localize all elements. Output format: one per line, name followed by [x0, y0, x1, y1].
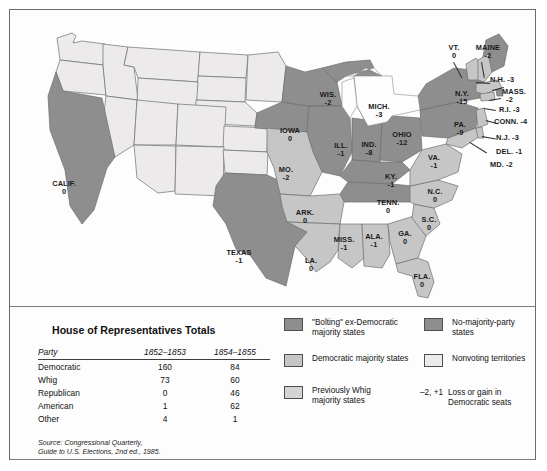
- state-label-massachusetts: MASS. -2: [502, 88, 526, 105]
- state-label-illinois: ILL.-1: [326, 142, 356, 159]
- legend-swatch-democratic: [284, 354, 303, 367]
- legend-label-bolting: "Bolting" ex-Democratic majority states: [312, 318, 398, 337]
- state-label-delaware: DEL. -1: [496, 148, 522, 156]
- legend-label-previously-whig: Previously Whig majority states: [312, 386, 371, 405]
- state-label-north-carolina: N.C.0: [421, 188, 449, 205]
- state-label-indiana: IND.-8: [353, 141, 385, 158]
- column-header-party: Party: [38, 346, 130, 360]
- state-label-maryland: MD. -2: [490, 161, 513, 169]
- legend-item-bolting: "Bolting" ex-Democratic majority states: [284, 318, 414, 337]
- legend-seat-change-symbol: –2, +1: [420, 388, 439, 397]
- legend-item-no-majority: No-majority-party states: [424, 318, 544, 337]
- state-label-iowa: IOWA0: [270, 127, 310, 144]
- state-label-connecticut: CONN. -4: [494, 118, 527, 126]
- state-utah: [134, 100, 178, 145]
- legend-label-democratic: Democratic majority states: [312, 354, 408, 364]
- state-label-pennsylvania: PA.-9: [447, 121, 473, 138]
- legend-swatch-previously-whig: [284, 386, 303, 399]
- state-label-califórnia: CALIF.0: [42, 180, 86, 197]
- state-label-tennessee: TENN.0: [367, 199, 409, 216]
- cell-1854: 1: [200, 413, 270, 426]
- table-row: Democratic 160 84: [38, 360, 270, 374]
- legend-item-nonvoting: Nonvoting territories: [424, 354, 544, 367]
- state-label-virginia: VA.-1: [421, 154, 447, 171]
- legend-item-previously-whig: Previously Whig majority states: [284, 386, 414, 405]
- state-label-south-carolina: S.C.0: [415, 216, 443, 233]
- cell-1852: 0: [130, 386, 200, 399]
- source-note: Source: Congressional Quarterly, Guide t…: [38, 439, 161, 456]
- state-new-jersey: [476, 108, 488, 128]
- state-label-rhode-island: R.I. -3: [499, 106, 520, 114]
- table-row: Whig 73 60: [38, 373, 270, 386]
- source-line-1: Source: Congressional Quarterly,: [38, 439, 161, 448]
- legend-bottom-divider: [10, 459, 535, 460]
- legend-swatch-no-majority: [424, 318, 443, 331]
- legend-swatch-bolting: [284, 318, 303, 331]
- column-header-1854-1855: 1854–1855: [200, 346, 270, 360]
- table-row: American 1 62: [38, 400, 270, 413]
- cell-party: Democratic: [38, 360, 130, 374]
- cell-1854: 84: [200, 360, 270, 374]
- state-label-alabama: ALA.-1: [358, 233, 390, 250]
- cell-1852: 73: [130, 373, 200, 386]
- state-label-kentucky: KY.-1: [376, 173, 406, 190]
- cell-party: American: [38, 400, 130, 413]
- cell-1852: 4: [130, 413, 200, 426]
- cell-1854: 62: [200, 400, 270, 413]
- legend-label-nonvoting: Nonvoting territories: [452, 354, 525, 364]
- table-row: Republican 0 46: [38, 386, 270, 399]
- state-arizona: [134, 145, 176, 193]
- legend-item-democratic: Democratic majority states: [284, 354, 424, 367]
- cell-party: Other: [38, 413, 130, 426]
- state-label-wisconsin: WIS.-2: [310, 91, 346, 108]
- table-title: House of Representatives Totals: [52, 324, 215, 336]
- state-oregon: [56, 60, 106, 95]
- state-label-arkansas: ARK.0: [287, 209, 323, 226]
- cell-1854: 60: [200, 373, 270, 386]
- legend-item-seat-change: –2, +1 Loss or gain in Democratic seats: [420, 388, 545, 407]
- state-south-dakota: [196, 76, 246, 102]
- source-line-2: Guide to U.S. Elections, 2nd ed., 1985.: [38, 448, 161, 457]
- state-indian-territory: [223, 150, 268, 175]
- state-label-texas: TEXAS-1: [216, 249, 262, 266]
- legend-label-seat-change: Loss or gain in Democratic seats: [448, 388, 511, 407]
- state-label-vermont: VT.0: [442, 44, 466, 61]
- state-label-louisiana: LA.0: [296, 257, 326, 274]
- map-legend: "Bolting" ex-Democratic majority states …: [272, 306, 535, 460]
- column-header-1852-1853: 1852–1853: [130, 346, 200, 360]
- totals-table: Party 1852–1853 1854–1855 Democratic 160…: [38, 346, 270, 426]
- state-label-maine: MAINE-2: [466, 44, 510, 61]
- state-label-missouri: MO.-2: [268, 166, 304, 183]
- legend-swatch-nonvoting: [424, 354, 443, 367]
- state-label-new-york: N.Y.-15: [446, 90, 478, 107]
- cell-1854: 46: [200, 386, 270, 399]
- state-label-new-jersey: N.J. -3: [496, 134, 519, 142]
- table-row: Other 4 1: [38, 413, 270, 426]
- state-label-ohio: OHIO-12: [382, 131, 422, 148]
- state-label-florida: FLA.0: [408, 273, 436, 290]
- legend-label-no-majority: No-majority-party states: [452, 318, 515, 337]
- infographic-frame: CALIF.0 TEXAS-1 IOWA0 MO.-2 ARK.0 LA.0 M…: [9, 9, 536, 460]
- state-minnesota: [246, 52, 286, 102]
- us-map: CALIF.0 TEXAS-1 IOWA0 MO.-2 ARK.0 LA.0 M…: [10, 10, 535, 305]
- cell-1852: 1: [130, 400, 200, 413]
- table-header-row: Party 1852–1853 1854–1855: [38, 346, 270, 360]
- state-kansas: [223, 126, 268, 152]
- cell-1852: 160: [130, 360, 200, 374]
- cell-party: Whig: [38, 373, 130, 386]
- state-label-new-hampshire: N.H. -3: [490, 76, 514, 84]
- state-north-dakota: [198, 52, 248, 78]
- state-label-michigan: MICH.-3: [358, 103, 400, 120]
- state-colorado: [176, 104, 226, 147]
- cell-party: Republican: [38, 386, 130, 399]
